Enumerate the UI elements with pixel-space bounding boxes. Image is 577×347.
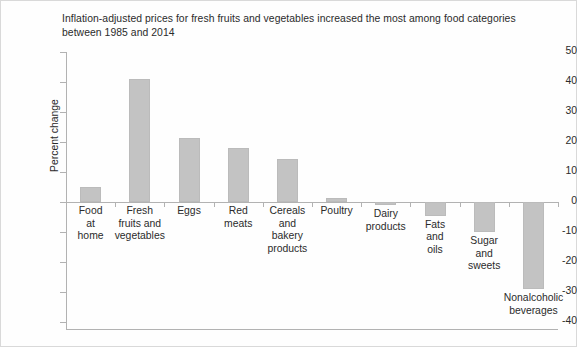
y-axis-label: Percent change bbox=[49, 76, 60, 196]
x-axis-category-label: Sugar and sweets bbox=[455, 235, 514, 273]
x-axis-category-label: Nonalcoholic beverages bbox=[504, 292, 563, 317]
bar bbox=[179, 138, 200, 203]
bar bbox=[523, 202, 544, 289]
x-axis-tick bbox=[410, 202, 411, 207]
x-axis-tick bbox=[460, 202, 461, 207]
x-axis-tick bbox=[509, 202, 510, 207]
bar bbox=[326, 198, 347, 203]
bar bbox=[277, 159, 298, 203]
bar bbox=[80, 187, 101, 202]
bar bbox=[228, 148, 249, 202]
bars-layer: Food at homeFresh fruits and vegetablesE… bbox=[66, 52, 558, 330]
chart-title-line-1: Inflation-adjusted prices for fresh frui… bbox=[62, 13, 516, 24]
bar bbox=[474, 202, 495, 232]
chart-container: Inflation-adjusted prices for fresh frui… bbox=[0, 0, 577, 347]
chart-title: Inflation-adjusted prices for fresh frui… bbox=[62, 12, 562, 39]
bar bbox=[375, 202, 396, 205]
x-axis-tick bbox=[558, 202, 559, 207]
bar bbox=[425, 202, 446, 216]
chart-title-line-2: between 1985 and 2014 bbox=[62, 27, 175, 38]
bar bbox=[129, 79, 150, 202]
